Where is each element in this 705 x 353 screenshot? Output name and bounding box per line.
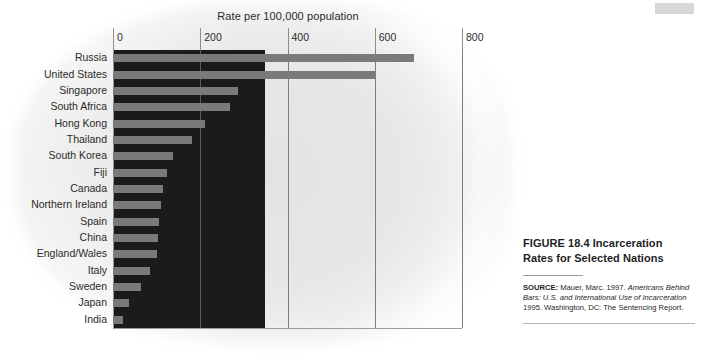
bar-row: United States bbox=[113, 71, 462, 79]
bar-row: Russia bbox=[113, 54, 462, 62]
plot-area: RussiaUnited StatesSingaporeSouth Africa… bbox=[113, 50, 462, 328]
bar-south-africa bbox=[113, 103, 230, 111]
bar-england-wales bbox=[113, 250, 157, 258]
bar-row: South Africa bbox=[113, 103, 462, 111]
source-text-part2: 1995. Washington, DC: The Sentencing Rep… bbox=[523, 303, 683, 312]
bar-row: Italy bbox=[113, 267, 462, 275]
bar-india bbox=[113, 316, 123, 324]
bar-canada bbox=[113, 185, 163, 193]
caption-divider-top bbox=[523, 275, 583, 276]
figure-caption-title: FIGURE 18.4 Incarceration Rates for Sele… bbox=[523, 236, 695, 265]
bar-row: India bbox=[113, 316, 462, 324]
figure-source-note: SOURCE: Mauer, Marc. 1997. Americans Beh… bbox=[523, 283, 695, 314]
bar-south-korea bbox=[113, 152, 173, 160]
bar-china bbox=[113, 234, 158, 242]
source-label: SOURCE: bbox=[523, 283, 558, 292]
bar-row: England/Wales bbox=[113, 250, 462, 258]
bar-fiji bbox=[113, 169, 167, 177]
category-label-china: China bbox=[1, 231, 107, 243]
plot-baseline bbox=[113, 328, 462, 329]
category-label-india: India bbox=[1, 313, 107, 325]
bar-row: Northern Ireland bbox=[113, 201, 462, 209]
x-axis-tick-label-200: 200 bbox=[200, 31, 222, 43]
bar-japan bbox=[113, 299, 129, 307]
category-label-thailand: Thailand bbox=[1, 133, 107, 145]
bar-row: South Korea bbox=[113, 152, 462, 160]
category-label-italy: Italy bbox=[1, 264, 107, 276]
bar-italy bbox=[113, 267, 150, 275]
bar-russia bbox=[113, 54, 414, 62]
bar-united-states bbox=[113, 71, 375, 79]
category-label-united-states: United States bbox=[1, 68, 107, 80]
chart-title: Rate per 100,000 population bbox=[113, 10, 463, 22]
bar-spain bbox=[113, 218, 159, 226]
x-axis-tick-label-400: 400 bbox=[288, 31, 310, 43]
corner-tab-marker bbox=[655, 3, 694, 14]
figure-caption-block: FIGURE 18.4 Incarceration Rates for Sele… bbox=[523, 236, 695, 324]
bar-row: Japan bbox=[113, 299, 462, 307]
category-label-south-korea: South Korea bbox=[1, 149, 107, 161]
bar-row: Sweden bbox=[113, 283, 462, 291]
bar-row: Hong Kong bbox=[113, 120, 462, 128]
category-label-sweden: Sweden bbox=[1, 280, 107, 292]
bar-northern-ireland bbox=[113, 201, 161, 209]
bar-row: China bbox=[113, 234, 462, 242]
gridline-800 bbox=[462, 50, 463, 328]
x-axis-tick-label-0: 0 bbox=[113, 31, 123, 43]
bar-hong-kong bbox=[113, 120, 205, 128]
category-label-northern-ireland: Northern Ireland bbox=[1, 198, 107, 210]
bar-row: Canada bbox=[113, 185, 462, 193]
x-axis: 0200400600800 bbox=[113, 28, 462, 50]
category-label-japan: Japan bbox=[1, 296, 107, 308]
incarceration-rates-chart: Rate per 100,000 population 020040060080… bbox=[0, 0, 500, 353]
category-label-fiji: Fiji bbox=[1, 166, 107, 178]
bar-thailand bbox=[113, 136, 192, 144]
x-axis-tick-label-800: 800 bbox=[462, 31, 484, 43]
x-axis-tick-label-600: 600 bbox=[375, 31, 397, 43]
bar-singapore bbox=[113, 87, 238, 95]
category-label-hong-kong: Hong Kong bbox=[1, 117, 107, 129]
bar-row: Singapore bbox=[113, 87, 462, 95]
category-label-russia: Russia bbox=[1, 51, 107, 63]
bar-row: Thailand bbox=[113, 136, 462, 144]
category-label-singapore: Singapore bbox=[1, 84, 107, 96]
category-label-england-wales: England/Wales bbox=[1, 247, 107, 259]
source-text-part1: Mauer, Marc. 1997. bbox=[558, 283, 628, 292]
bar-row: Spain bbox=[113, 218, 462, 226]
category-label-spain: Spain bbox=[1, 215, 107, 227]
bar-sweden bbox=[113, 283, 141, 291]
category-label-south-africa: South Africa bbox=[1, 100, 107, 112]
category-label-canada: Canada bbox=[1, 182, 107, 194]
bar-row: Fiji bbox=[113, 169, 462, 177]
caption-divider-bottom bbox=[523, 323, 695, 324]
